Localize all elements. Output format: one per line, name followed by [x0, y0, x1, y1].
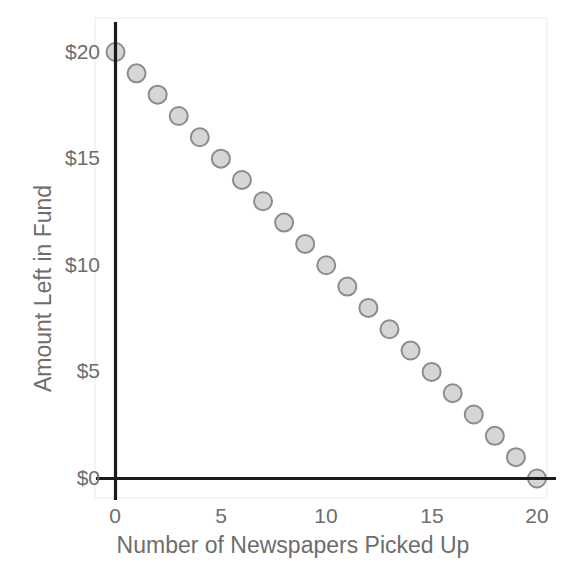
data-point: [275, 214, 293, 232]
x-tick-label-10: 10: [314, 504, 337, 528]
data-point: [317, 256, 335, 274]
plot-area: [0, 0, 586, 586]
y-tick-label-15: $15: [65, 146, 100, 170]
y-tick-label-20: $20: [65, 40, 100, 64]
data-point: [233, 171, 251, 189]
x-axis-title: Number of Newspapers Picked Up: [0, 532, 586, 559]
data-point: [359, 299, 377, 317]
data-point: [338, 278, 356, 296]
data-point: [212, 150, 230, 168]
data-point: [170, 107, 188, 125]
data-point: [486, 427, 504, 445]
y-tick-label-0: $0: [77, 466, 100, 490]
y-axis-title: Amount Left in Fund: [30, 185, 57, 392]
scatter-chart: $20 $15 $10 $5 $0 0 5 10 15 20 Number of…: [0, 0, 586, 586]
data-point: [191, 128, 209, 146]
data-point: [380, 320, 398, 338]
data-point: [423, 363, 441, 381]
data-point: [507, 448, 525, 466]
data-point: [465, 406, 483, 424]
x-tick-label-15: 15: [420, 504, 443, 528]
x-tick-label-5: 5: [215, 504, 227, 528]
y-tick-label-5: $5: [77, 359, 100, 383]
x-tick-label-0: 0: [109, 504, 121, 528]
data-point: [402, 342, 420, 360]
data-point: [128, 64, 146, 82]
data-point: [444, 384, 462, 402]
y-tick-label-10: $10: [65, 253, 100, 277]
x-tick-label-20: 20: [525, 504, 548, 528]
data-point: [254, 192, 272, 210]
data-point: [296, 235, 314, 253]
data-point: [149, 86, 167, 104]
